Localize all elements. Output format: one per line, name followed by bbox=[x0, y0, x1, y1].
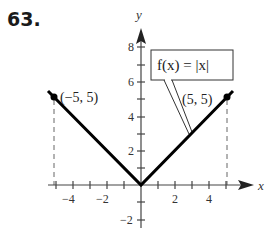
y-tick-label: 6 bbox=[128, 75, 134, 89]
y-tick-label: 2 bbox=[128, 144, 134, 158]
point-label-left: (−5, 5) bbox=[60, 90, 99, 106]
point-marker bbox=[51, 94, 58, 101]
y-tick-label: −2 bbox=[120, 213, 133, 227]
graph-figure: x y −4 −2 2 4 8 6 4 2 −2 (−5, 5) (5, 5) … bbox=[0, 0, 267, 232]
y-tick-label: 8 bbox=[128, 40, 134, 54]
point-label-right: (5, 5) bbox=[182, 92, 213, 108]
x-tick-label: 4 bbox=[206, 192, 212, 206]
x-tick-label: −2 bbox=[96, 192, 109, 206]
x-axis bbox=[48, 181, 245, 189]
x-tick-label: 2 bbox=[172, 192, 178, 206]
y-tick-label: 4 bbox=[128, 110, 134, 124]
callout-pointer bbox=[164, 80, 192, 134]
point-marker bbox=[224, 94, 231, 101]
y-axis-label: y bbox=[134, 7, 142, 22]
function-label: f(x) = |x| bbox=[157, 57, 209, 74]
x-axis-label: x bbox=[257, 178, 264, 193]
y-axis bbox=[137, 36, 145, 228]
x-tick-label: −4 bbox=[62, 192, 75, 206]
